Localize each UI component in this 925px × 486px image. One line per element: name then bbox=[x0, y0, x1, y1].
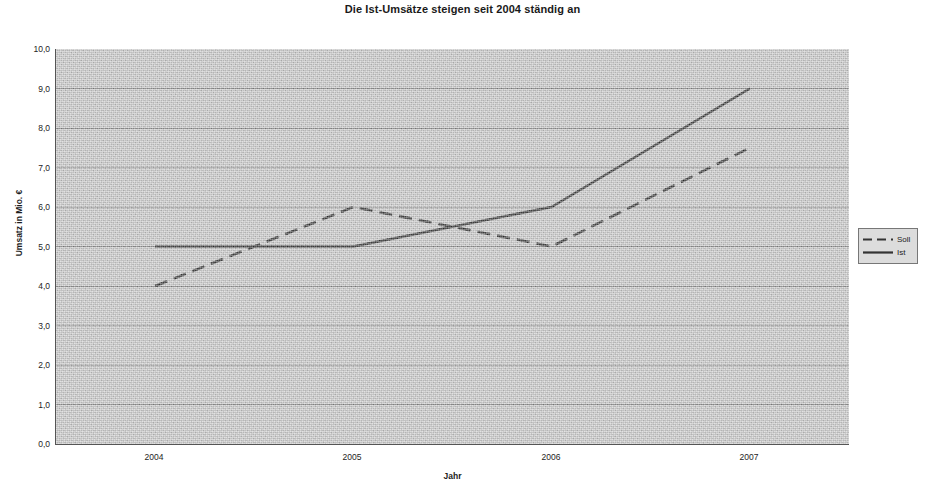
x-axis-tick-label: 2005 bbox=[343, 452, 362, 462]
series-line-soll bbox=[155, 148, 750, 286]
legend-item-soll: Soll bbox=[862, 233, 914, 246]
chart-title: Die Ist-Umsätze steigen seit 2004 ständi… bbox=[0, 3, 925, 15]
y-axis-title: Umsatz in Mio. € bbox=[14, 168, 24, 278]
legend-label-ist: Ist bbox=[897, 248, 905, 257]
x-axis-tick-label: 2007 bbox=[740, 452, 759, 462]
y-axis-tick-labels: 10,0 9,0 8,0 7,0 6,0 5,0 4,0 3,0 2,0 1,0… bbox=[0, 0, 50, 486]
x-axis-tick-label: 2004 bbox=[145, 452, 164, 462]
y-axis-tick-label: 10,0 bbox=[8, 44, 50, 54]
series-lines bbox=[155, 89, 750, 287]
y-axis-tick-label: 9,0 bbox=[8, 84, 50, 94]
y-axis-tick-label: 2,0 bbox=[8, 360, 50, 370]
y-axis-tick-label: 8,0 bbox=[8, 123, 50, 133]
y-axis-tick-label: 3,0 bbox=[8, 321, 50, 331]
chart-container: Die Ist-Umsätze steigen seit 2004 ständi… bbox=[0, 0, 925, 486]
legend-swatch-dashed-icon bbox=[862, 235, 894, 244]
chart-legend: Soll Ist bbox=[858, 228, 918, 264]
y-axis-tick-label: 0,0 bbox=[8, 439, 50, 449]
legend-swatch-solid-icon bbox=[862, 248, 894, 257]
legend-label-soll: Soll bbox=[897, 235, 910, 244]
legend-item-ist: Ist bbox=[862, 246, 914, 259]
y-axis-tick-label: 4,0 bbox=[8, 281, 50, 291]
x-axis-tick-label: 2006 bbox=[542, 452, 561, 462]
y-axis-tick-label: 1,0 bbox=[8, 400, 50, 410]
plot-svg bbox=[56, 49, 849, 444]
x-axis-title: Jahr bbox=[0, 471, 905, 481]
plot-area bbox=[55, 49, 849, 445]
